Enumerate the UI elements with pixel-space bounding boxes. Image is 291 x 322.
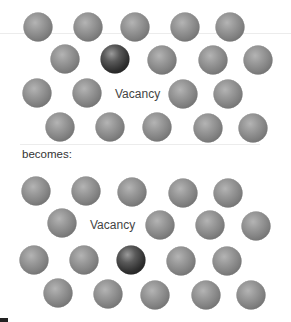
lattice-atom: [72, 177, 101, 206]
lattice-atom: [216, 13, 245, 42]
lattice-atom: [24, 13, 53, 42]
lattice-atom: [239, 114, 268, 143]
lattice-atom: [74, 13, 103, 42]
lattice-atom: [194, 114, 223, 143]
lattice-atom: [44, 279, 73, 308]
migrating-atom: [117, 246, 146, 275]
lattice-atom: [141, 281, 170, 310]
lattice-atom: [22, 177, 51, 206]
lattice-atom: [23, 79, 52, 108]
lattice-atom: [73, 79, 102, 108]
cropped-caption-fragment: [0, 318, 8, 322]
lattice-atom: [46, 113, 75, 142]
lattice-atom: [51, 45, 80, 74]
lattice-atom: [199, 46, 228, 75]
lattice-atom: [171, 13, 200, 42]
lattice-atom: [94, 280, 123, 309]
lattice-atom: [244, 46, 273, 75]
lattice-atom: [237, 281, 266, 310]
vacancy-label-top: Vacancy: [115, 87, 160, 101]
lattice-atom: [214, 179, 243, 208]
lattice-atom: [169, 80, 198, 109]
lattice-atom: [70, 246, 99, 275]
lattice-atom: [148, 46, 177, 75]
lattice-atom: [196, 211, 225, 240]
migrating-atom: [101, 45, 130, 74]
lattice-atom: [143, 113, 172, 142]
lattice-atom: [121, 13, 150, 42]
divider: [20, 144, 260, 145]
lattice-atom: [167, 247, 196, 276]
vacancy-label-bottom: Vacancy: [90, 218, 135, 232]
lattice-atom: [169, 179, 198, 208]
lattice-atom: [242, 212, 271, 241]
lattice-atom: [213, 247, 242, 276]
lattice-atom: [118, 178, 147, 207]
lattice-atom: [192, 281, 221, 310]
lattice-atom: [48, 209, 77, 238]
lattice-atom: [146, 211, 175, 240]
becomes-text: becomes:: [22, 148, 72, 160]
lattice-atom: [214, 80, 243, 109]
lattice-atom: [96, 113, 125, 142]
lattice-atom: [20, 246, 49, 275]
